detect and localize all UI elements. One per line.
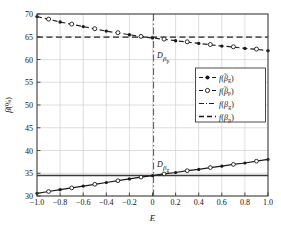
x-tick-label: −0.6 [76,198,91,207]
x-tick-label: 0.8 [240,198,250,207]
legend-swatch-open-circle-icon [205,88,209,92]
x-axis-title: E [149,213,156,223]
y-tick-label: 30 [25,192,33,201]
y-tick-label: 50 [25,101,33,110]
y-tick-label: 45 [25,124,33,133]
y-axis-title-percent: (%) [4,97,13,109]
annotation-d-beta-p-subsub: p [167,58,170,64]
annotation-d-beta-g-base: D [156,160,163,169]
svg-text:f(βg): f(βg) [219,100,234,110]
y-tick-label: 55 [25,78,33,87]
chart-figure: −1.0 −0.8 −0.6 −0.4 −0.2 0 0.2 0.4 0.6 0… [0,0,281,228]
annotation-d-beta-p-base: D [156,51,163,60]
x-tick-label: 0.2 [171,198,181,207]
y-tick-label: 35 [25,169,33,178]
x-tick-label: 0.4 [194,198,204,207]
y-tick-label: 40 [25,147,33,156]
x-tick-label: −0.8 [53,198,68,207]
svg-text:f(βp): f(βp) [219,113,234,123]
legend-var-3: β [223,100,228,109]
legend-close-4: ) [231,113,234,122]
x-tick-label: −0.4 [99,198,114,207]
tilde-icon: ~ [224,83,228,91]
legend-close-1: ) [231,74,234,83]
x-tick-label: 0.6 [217,198,227,207]
tilde-icon: ~ [224,70,228,78]
legend-close-2: ) [231,87,234,96]
svg-text:β(%): β(%) [3,97,13,114]
x-tick-label: 0 [151,198,155,207]
y-tick-label: 65 [25,33,33,42]
legend-close-3: ) [231,100,234,109]
chart-svg: −1.0 −0.8 −0.6 −0.4 −0.2 0 0.2 0.4 0.6 0… [0,0,281,228]
legend: f(β~g) f(β~p) f(βg) [196,68,266,123]
x-tick-label: −0.2 [122,198,137,207]
y-tick-label: 70 [25,10,33,19]
x-tick-label: 1.0 [263,198,273,207]
annotation-d-beta-g-subsub: g [167,167,170,173]
y-axis-title: β(%) [3,97,13,114]
y-tick-labels: 30 35 40 45 50 55 60 65 70 [25,10,33,201]
legend-swatch-filled-circle-icon [206,76,210,80]
legend-var-4: β [223,113,228,122]
y-tick-label: 60 [25,56,33,65]
